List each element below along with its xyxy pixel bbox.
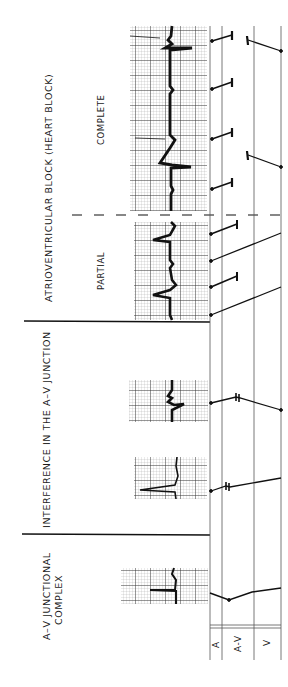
ecg-strip-junctional	[121, 568, 208, 604]
section-divider-2	[24, 321, 210, 322]
svg-text:A–V JUNCTIONAL: A–V JUNCTIONAL	[41, 552, 52, 640]
title-av-junctional: A–V JUNCTIONAL COMPLEX	[41, 552, 64, 640]
ecg-strip-complete	[130, 26, 207, 211]
ecg-strip-interference-2	[134, 457, 207, 499]
lane-label-v: V	[262, 639, 272, 646]
lane-label-a: A	[211, 641, 221, 648]
ladder-junctional	[210, 588, 281, 601]
ladder-complete	[211, 31, 283, 190]
ladder-partial	[210, 220, 281, 316]
section-divider-1	[22, 534, 210, 535]
title-av-block: ATRIOVENTRICULAR BLOCK (HEART BLOCK)	[43, 74, 54, 302]
label-partial: PARTIAL	[96, 252, 106, 290]
title-interference: INTERFERENCE IN THE A–V JUNCTION	[41, 331, 52, 528]
label-complete: COMPLETE	[96, 94, 106, 145]
lane-label-av: A-V	[233, 635, 243, 652]
svg-text:COMPLEX: COMPLEX	[53, 575, 64, 625]
ladder-interference	[210, 393, 283, 492]
ladder-diagram: A–V JUNCTIONAL COMPLEX INTERFERENCE IN T…	[0, 0, 288, 687]
ladder-lines	[210, 26, 281, 660]
ecg-strip-partial	[134, 222, 208, 320]
ecg-strip-interference-1	[129, 380, 208, 422]
